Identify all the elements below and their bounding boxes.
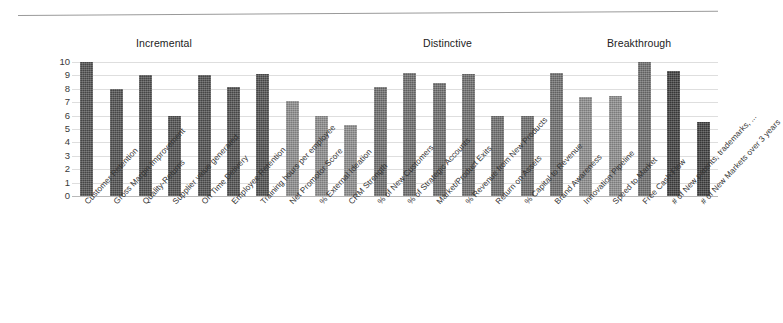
y-tick-label: 3: [50, 151, 70, 161]
y-tick-label: 2: [50, 164, 70, 174]
section-header-incremental: Incremental: [136, 37, 192, 49]
section-header-distinctive: Distinctive: [423, 37, 472, 49]
divider-rule: [18, 11, 718, 16]
y-tick-label: 6: [50, 111, 70, 121]
y-tick-label: 5: [50, 124, 70, 134]
section-header-breakthrough: Breakthrough: [607, 37, 671, 49]
x-axis-labels: Customer RetentionGross Margin Improveme…: [72, 200, 732, 320]
bar: [491, 116, 504, 196]
y-axis: 109876543210: [50, 55, 70, 203]
y-tick-label: 0: [50, 191, 70, 201]
y-tick-label: 10: [50, 57, 70, 67]
bar: [80, 62, 93, 196]
y-tick-label: 1: [50, 178, 70, 188]
y-tick-label: 4: [50, 137, 70, 147]
y-tick-label: 9: [50, 70, 70, 80]
y-tick-label: 7: [50, 97, 70, 107]
y-tick-label: 8: [50, 84, 70, 94]
